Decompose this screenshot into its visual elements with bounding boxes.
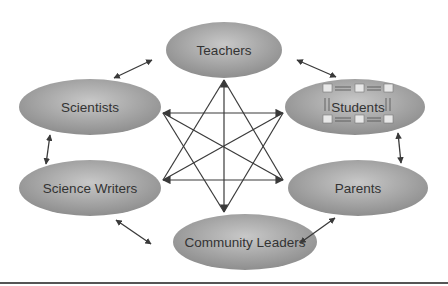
center-star-links (163, 80, 283, 212)
community-leaders-label: Community Leaders (185, 235, 306, 250)
scientists-label: Scientists (61, 100, 119, 115)
teachers-label: Teachers (197, 43, 252, 58)
bottom-rule (0, 282, 448, 284)
link-students-parents (398, 133, 401, 163)
link-teachers-scientists (114, 60, 152, 78)
node-scientists: Scientists (19, 79, 161, 135)
node-students: Students (285, 79, 425, 135)
link-scientists-science-writers (46, 135, 50, 164)
link-science-writers-community-leaders (116, 220, 151, 244)
link-teachers-students (297, 60, 336, 77)
science-writers-label: Science Writers (43, 181, 138, 196)
stakeholder-diagram: Teachers Scientists Students Science Wri… (0, 0, 448, 286)
node-parents: Parents (288, 160, 428, 216)
node-teachers: Teachers (166, 22, 282, 78)
node-community-leaders: Community Leaders (173, 214, 317, 270)
students-label: Students (331, 100, 385, 115)
parents-label: Parents (335, 181, 382, 196)
node-science-writers: Science Writers (19, 160, 161, 216)
